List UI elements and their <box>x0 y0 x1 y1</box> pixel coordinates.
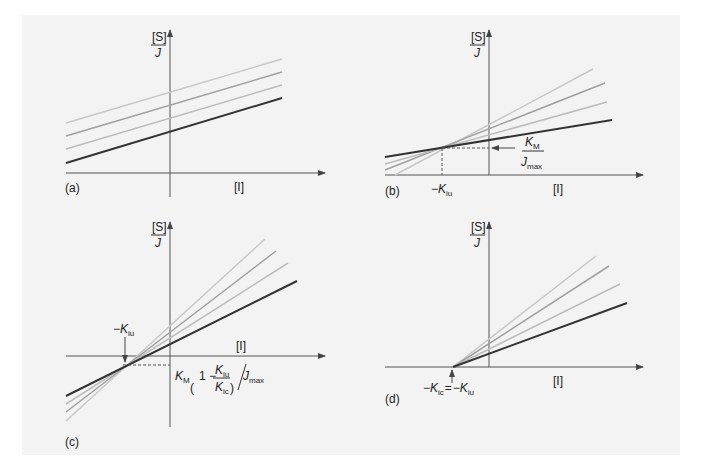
line-4 <box>453 256 596 367</box>
intersection-expression: KM ( 1 − Kiu Kic ) Jmax <box>175 363 264 396</box>
intercept-label: −Kiu <box>431 182 452 198</box>
panel-c: [S] J [I] (c) −Kiu KM ( 1 − Kiu Kic ) Jm… <box>65 220 325 449</box>
svg-text:(: ( <box>190 381 194 395</box>
svg-text:): ) <box>230 381 234 395</box>
y-axis-denominator: J <box>154 236 162 250</box>
panel-d: [S] J [I] (d) −Kic=−Kiu <box>385 220 643 406</box>
line-3 <box>66 251 276 412</box>
y-axis-numerator: [S] <box>471 30 486 44</box>
line-3 <box>66 72 282 136</box>
y-axis-numerator: [S] <box>152 30 167 44</box>
intercept-equality-label: −Kic=−Kiu <box>423 381 474 397</box>
line-2 <box>385 102 607 164</box>
intercept-label: −Kiu <box>113 322 134 338</box>
svg-text:Kiu: Kiu <box>215 363 229 379</box>
y-axis-denominator: J <box>473 46 481 60</box>
line-4 <box>66 59 282 123</box>
svg-text:1 −: 1 − <box>199 369 216 383</box>
line-3 <box>453 266 609 367</box>
panel-b: [S] J [I] (b) −Kiu KM Jmax <box>385 30 643 198</box>
ratio-denominator: Jmax <box>520 155 542 171</box>
svg-text:Kic: Kic <box>215 380 229 396</box>
y-axis-numerator: [S] <box>152 220 167 234</box>
baseline-line <box>66 98 282 163</box>
x-axis-label: [I] <box>236 339 246 353</box>
panel-label: (d) <box>385 392 400 406</box>
line-4 <box>395 69 593 175</box>
svg-text:Jmax: Jmax <box>242 369 264 385</box>
y-axis-denominator: J <box>473 236 481 250</box>
svg-text:KM: KM <box>175 369 190 385</box>
x-axis-label: [I] <box>553 374 563 388</box>
panel-label: (a) <box>65 181 80 195</box>
panel-a: [S] J [I] (a) <box>65 30 325 197</box>
ratio-numerator: KM <box>525 135 540 151</box>
x-axis-label: [I] <box>553 182 563 196</box>
y-axis-denominator: J <box>154 46 162 60</box>
line-2 <box>66 85 282 149</box>
line-2 <box>453 284 620 367</box>
y-axis-numerator: [S] <box>471 220 486 234</box>
figure-canvas: [S] J [I] (a) [S] J [I] (b) −Kiu KM Jmax <box>0 0 703 474</box>
x-axis-label: [I] <box>234 180 244 194</box>
baseline-line <box>453 303 627 367</box>
line-4 <box>66 239 265 421</box>
panel-label: (b) <box>385 184 400 198</box>
panel-label: (c) <box>65 435 79 449</box>
